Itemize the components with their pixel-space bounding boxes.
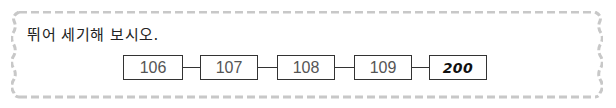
connector-line [412,67,429,68]
sequence-box-1: 106 [123,55,183,80]
sequence-box-4: 109 [354,55,412,80]
answer-box: 200 [429,55,487,80]
sequence-box-3: 108 [277,55,335,80]
connector-line [335,67,354,68]
question-instruction: 뛰어 세기해 보시오. [27,23,159,44]
connector-line [183,67,200,68]
sequence-box-2: 107 [200,55,258,80]
connector-line [258,67,277,68]
